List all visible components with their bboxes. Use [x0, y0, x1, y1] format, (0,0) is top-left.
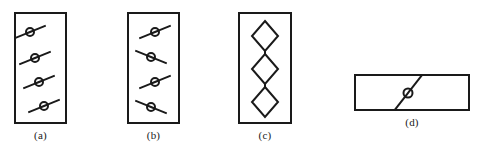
panel-c-diamond-2: [252, 54, 278, 84]
panel-c-diamond-1: [252, 21, 278, 51]
panel-c-diamond-3: [252, 87, 278, 117]
panel-b: [127, 12, 180, 124]
figure-container: (a) (b) (c) (d): [0, 0, 479, 153]
panel-b-label: (b): [127, 129, 180, 141]
panel-a: [14, 12, 67, 124]
panel-d: [354, 74, 470, 111]
panel-c: [238, 12, 292, 124]
panel-c-drawing: [238, 12, 292, 124]
panel-d-drawing: [354, 74, 470, 111]
panel-a-label: (a): [14, 129, 67, 141]
panel-b-drawing: [127, 12, 180, 124]
panel-d-label: (d): [354, 116, 470, 128]
panel-a-drawing: [14, 12, 67, 124]
panel-c-label: (c): [238, 129, 292, 141]
